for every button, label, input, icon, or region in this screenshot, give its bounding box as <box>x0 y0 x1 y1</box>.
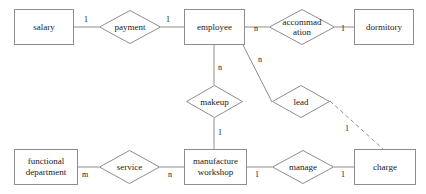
relationship-lead[interactable]: lead <box>272 85 330 118</box>
cardinality-employee-accommodation-card: n <box>254 24 258 33</box>
entity-employee[interactable]: employee <box>184 9 245 45</box>
relationship-label: accommad ation <box>281 17 324 37</box>
relationship-makeup[interactable]: makeup <box>186 85 243 118</box>
entity-functional_department[interactable]: functional department <box>14 149 78 185</box>
edge-lead-charge <box>330 101 383 149</box>
entity-label: charge <box>373 162 397 173</box>
cardinality-employee-lead-card: n <box>258 55 262 64</box>
relationship-label: makeup <box>198 97 231 107</box>
cardinality-service-manufacture-card: n <box>168 170 172 179</box>
entity-label: employee <box>197 22 232 33</box>
cardinality-salary-payment-card: 1 <box>84 15 88 24</box>
relationship-payment[interactable]: payment <box>99 10 161 44</box>
cardinality-department-service-card: m <box>82 170 88 179</box>
edge-employee-lead <box>243 45 272 102</box>
entity-salary[interactable]: salary <box>14 9 74 45</box>
relationship-label: service <box>115 162 144 172</box>
relationship-label: payment <box>113 22 148 32</box>
cardinality-makeup-manufacture-card: 1 <box>218 128 222 137</box>
entity-label: dormitory <box>366 22 402 33</box>
entity-manufacture_workshop[interactable]: manufacture workshop <box>184 149 247 185</box>
relationship-manage[interactable]: manage <box>272 150 334 184</box>
relationship-label: lead <box>292 97 311 107</box>
relationship-service[interactable]: service <box>99 150 160 184</box>
relationship-accommodation[interactable]: accommad ation <box>269 9 335 45</box>
cardinality-payment-employee-card: 1 <box>166 15 170 24</box>
entity-charge[interactable]: charge <box>354 149 416 185</box>
er-diagram-canvas: salaryemployeedormitoryfunctional depart… <box>0 0 426 194</box>
cardinality-manage-charge-card: 1 <box>341 170 345 179</box>
cardinality-accommodation-dormitory-card: 1 <box>341 24 345 33</box>
entity-dormitory[interactable]: dormitory <box>354 9 414 45</box>
entity-label: salary <box>33 22 55 33</box>
cardinality-lead-charge-card: 1 <box>345 124 349 133</box>
cardinality-employee-makeup-card: n <box>218 63 222 72</box>
cardinality-manufacture-manage-card: 1 <box>255 170 259 179</box>
entity-label: functional department <box>26 156 66 178</box>
entity-label: manufacture workshop <box>193 156 238 178</box>
relationship-label: manage <box>287 162 319 172</box>
